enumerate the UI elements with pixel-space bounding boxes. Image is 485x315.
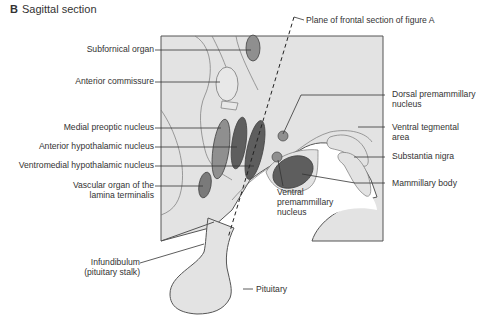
label-ventromedial-hypothalamic-nucleus: Ventromedial hypothalamic nucleus	[19, 160, 154, 170]
label-substantia-nigra: Substantia nigra	[392, 151, 454, 161]
label-subfornical-organ: Subfornical organ	[87, 44, 154, 54]
label-dorsal-premammillary-nucleus: Dorsal premammillarynucleus	[392, 89, 476, 109]
label-anterior-commissure: Anterior commissure	[75, 76, 154, 86]
label-anterior-hypothalamic-nucleus: Anterior hypothalamic nucleus	[39, 141, 154, 151]
label-plane-frontal-section: Plane of frontal section of figure A	[306, 15, 435, 25]
label-medial-preoptic-nucleus: Medial preoptic nucleus	[64, 122, 154, 132]
label-mammillary-body: Mammillary body	[392, 178, 457, 188]
label-infundibulum: Infundibulum(pituitary stalk)	[84, 257, 140, 277]
subfornical-organ-shape	[246, 35, 260, 61]
label-pituitary: Pituitary	[256, 284, 287, 294]
label-ventral-tegmental-area: Ventral tegmentalarea	[392, 122, 459, 142]
anterior-commissure-shape	[216, 67, 238, 101]
ventral-premammillary-nucleus-shape	[272, 152, 282, 162]
dorsal-premammillary-nucleus-shape	[278, 131, 288, 141]
label-ventral-premammillary-nucleus: Ventralpremammillarynucleus	[277, 187, 333, 217]
label-vascular-organ-lamina-terminalis: Vascular organ of thelamina terminalis	[73, 180, 154, 200]
